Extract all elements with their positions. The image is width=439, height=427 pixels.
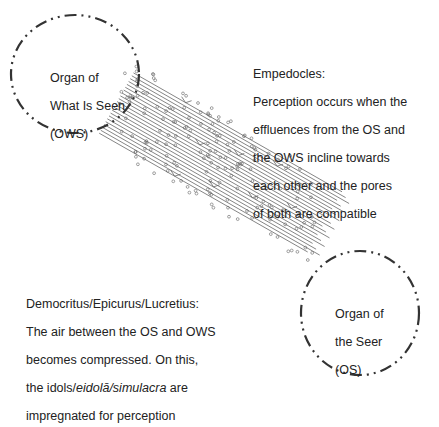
empedocles-annotation: Empedocles: Perception occurs when the e… — [253, 53, 407, 235]
annotation-line: Perception occurs when the — [253, 95, 407, 109]
annotation-line: each other and the pores — [253, 179, 407, 193]
annotation-line: impregnated for perception — [26, 409, 216, 423]
annotation-line: the idols/eidolā/simulacra are — [26, 381, 216, 395]
annotation-line: of both are compatible — [253, 207, 407, 221]
annotation-line: The air between the OS and OWS — [26, 325, 216, 339]
annotation-line: the OWS incline towards — [253, 151, 407, 165]
ows-label-line: Organ of — [50, 71, 125, 85]
annotation-line: becomes compressed. On this, — [26, 353, 216, 367]
annotation-title: Democritus/Epicurus/Lucretius: — [26, 297, 216, 311]
os-label-line: Organ of — [335, 307, 384, 321]
text-segment: are — [166, 381, 188, 395]
os-label: Organ of the Seer (OS) — [335, 293, 384, 391]
democritus-annotation: Democritus/Epicurus/Lucretius: The air b… — [26, 283, 216, 427]
annotation-title: Empedocles: — [253, 67, 407, 81]
os-label-line: the Seer — [335, 335, 384, 349]
ows-label-line: (OWS) — [50, 127, 125, 141]
os-label-line: (OS) — [335, 363, 384, 377]
ows-label: Organ of What Is Seen (OWS) — [50, 57, 125, 155]
ows-label-line: What Is Seen — [50, 99, 125, 113]
italic-term: eidolā/simulacra — [76, 381, 166, 395]
annotation-line: effluences from the OS and — [253, 123, 407, 137]
text-segment: the idols/ — [26, 381, 76, 395]
